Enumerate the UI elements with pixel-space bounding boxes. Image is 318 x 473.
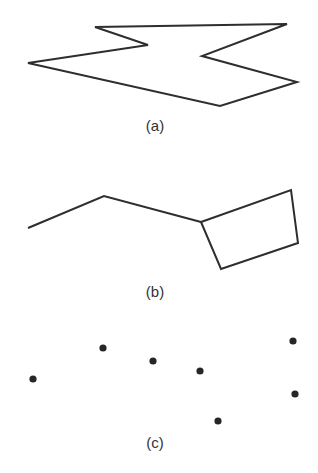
open-polyline	[28, 196, 201, 228]
caption-c: (c)	[125, 434, 185, 452]
point-dot	[214, 417, 221, 424]
caption-b: (b)	[125, 283, 185, 301]
panel-b	[28, 190, 298, 269]
quadrilateral	[201, 190, 298, 269]
point-dot	[149, 357, 156, 364]
figure-canvas	[0, 0, 318, 473]
point-dot	[289, 337, 296, 344]
point-dot	[196, 367, 203, 374]
point-dot	[291, 390, 298, 397]
zigzag-polygon	[28, 24, 297, 106]
caption-a: (a)	[125, 117, 185, 135]
point-dot	[29, 375, 36, 382]
point-dot	[99, 344, 106, 351]
panel-c-point-set	[29, 337, 298, 424]
panel-a	[28, 24, 297, 106]
